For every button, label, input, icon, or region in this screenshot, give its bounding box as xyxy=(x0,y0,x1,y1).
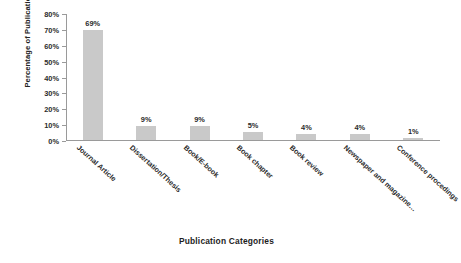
y-tick-mark xyxy=(62,141,66,142)
bar-value-label: 4% xyxy=(301,123,312,132)
x-axis-category-label: Journal Article xyxy=(75,143,118,183)
bar[interactable] xyxy=(83,30,103,140)
bar-slot[interactable]: 9% xyxy=(190,126,210,140)
bar-value-label: 9% xyxy=(141,115,152,124)
x-axis-line xyxy=(66,140,440,141)
bar-value-label: 9% xyxy=(194,115,205,124)
y-tick-label: 60% xyxy=(44,41,59,50)
y-tick-label: 80% xyxy=(44,10,59,19)
x-axis-category-labels: Journal ArticleDissertation/ThesisBook/E… xyxy=(66,143,440,218)
bar[interactable] xyxy=(403,138,423,140)
bar-value-label: 4% xyxy=(355,123,366,132)
y-tick-label: 30% xyxy=(44,89,59,98)
bar-value-label: 5% xyxy=(248,121,259,130)
y-axis-title: Percentage of Publication Categories xyxy=(23,0,32,104)
bar[interactable] xyxy=(296,134,316,140)
bar[interactable] xyxy=(190,126,210,140)
bar-slot[interactable]: 69% xyxy=(83,30,103,140)
bar-slot[interactable]: 9% xyxy=(136,126,156,140)
bar-series: 69%9%9%5%4%4%1% xyxy=(66,14,440,140)
bar-value-label: 69% xyxy=(85,19,100,28)
y-tick-label: 70% xyxy=(44,25,59,34)
y-tick-label: 10% xyxy=(44,121,59,130)
x-axis-category-label: Book review xyxy=(288,143,325,178)
y-tick-label: 20% xyxy=(44,105,59,114)
bar-slot[interactable]: 4% xyxy=(350,134,370,140)
bar-value-label: 1% xyxy=(408,127,419,136)
x-axis-category-label: Dissertation/Thesis xyxy=(128,143,183,194)
bar-slot[interactable]: 4% xyxy=(296,134,316,140)
y-tick-label: 40% xyxy=(44,73,59,82)
y-tick-label: 0% xyxy=(48,137,59,146)
x-axis-category-label: Book/E-book xyxy=(182,143,221,179)
bar[interactable] xyxy=(136,126,156,140)
x-axis-category-label: Book chapter xyxy=(235,143,275,180)
bar[interactable] xyxy=(350,134,370,140)
bar[interactable] xyxy=(243,132,263,140)
bar-slot[interactable]: 1% xyxy=(403,138,423,140)
x-axis-title: Publication Categories xyxy=(0,236,453,246)
plot-area: 0%10%20%30%40%50%60%70%80% 69%9%9%5%4%4%… xyxy=(66,14,440,141)
bar-slot[interactable]: 5% xyxy=(243,132,263,140)
y-tick-label: 50% xyxy=(44,57,59,66)
